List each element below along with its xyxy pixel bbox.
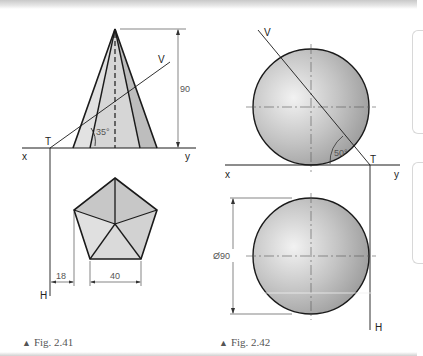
fig2-label-V: V — [264, 27, 271, 38]
fig2-label-T: T — [370, 154, 376, 165]
fig2-label-y: y — [394, 169, 399, 180]
page-bottom-edge — [0, 352, 417, 356]
fig2-diameter-dim-label: Ø90 — [213, 251, 230, 261]
fig1-label-x: x — [22, 151, 27, 162]
caption-text: Fig. 2.42 — [231, 336, 270, 348]
fig1-angle-label: 35° — [96, 127, 110, 137]
fig2-label-H: H — [375, 322, 382, 333]
side-note-box-bottom — [412, 162, 423, 264]
fig2-angle-label: 50° — [334, 148, 348, 158]
fig1-label-T: T — [45, 136, 51, 147]
fig1-offset-dim-label: 18 — [56, 271, 66, 281]
fig1-label-H: H — [40, 290, 47, 301]
triangle-marker-icon: ▲ — [219, 338, 228, 348]
fig1-label-V: V — [158, 54, 165, 65]
fig1-height-dim-label: 90 — [180, 84, 190, 94]
fig1-label-y: y — [185, 151, 190, 162]
fig-2-42-caption: ▲Fig. 2.42 — [219, 336, 270, 348]
side-note-box-top — [412, 30, 423, 134]
pentagon-top-view — [74, 178, 157, 259]
fig-2-42-drawing — [213, 30, 400, 330]
fig2-label-x: x — [225, 169, 230, 180]
cone-front-view — [73, 29, 157, 148]
fig-2-41-drawing — [22, 29, 196, 296]
caption-text: Fig. 2.41 — [34, 336, 73, 348]
fig-2-41-caption: ▲Fig. 2.41 — [22, 336, 73, 348]
fig1-side-dim-label: 40 — [110, 271, 120, 281]
triangle-marker-icon: ▲ — [22, 338, 31, 348]
